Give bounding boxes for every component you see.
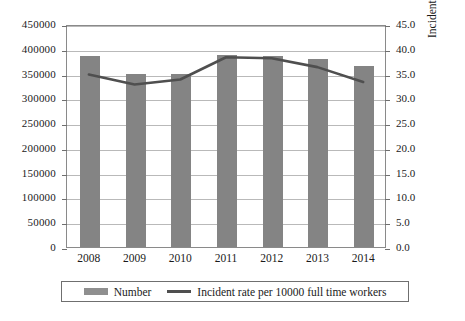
bar-2010 [171,74,191,247]
left-axis-tick-label: 0 [0,242,56,253]
x-axis-label-2008: 2008 [66,252,112,264]
legend-label-number: Number [114,286,152,298]
legend-label-incident-rate: Incident rate per 10000 full time worker… [197,286,386,298]
left-axis-tick-label: 450000 [0,19,56,30]
left-axis-tick [62,51,67,52]
right-axis-tick-label: 20.0 [396,143,415,154]
plot-area [66,25,386,248]
left-axis-tick-label: 250000 [0,118,56,129]
bar-2014 [354,66,374,247]
left-axis-tick-label: 300000 [0,93,56,104]
right-axis-tick-label: 25.0 [396,118,415,129]
right-axis-title: Incident rate per 10000 full time worker… [426,0,438,38]
legend-item-number[interactable]: Number [84,286,152,298]
left-axis-tick [62,26,67,27]
x-axis-label-2011: 2011 [203,252,249,264]
left-axis-tick [62,150,67,151]
right-axis-tick-label: 10.0 [396,192,415,203]
left-axis-tick-label: 150000 [0,168,56,179]
right-axis-tick [385,150,390,151]
legend-bar-swatch-icon [84,288,108,295]
right-axis-tick-label: 30.0 [396,93,415,104]
gridline [67,51,385,52]
right-axis-tick [385,224,390,225]
x-axis-label-2012: 2012 [249,252,295,264]
left-axis-tick [62,76,67,77]
legend-item-incident-rate[interactable]: Incident rate per 10000 full time worker… [167,286,386,298]
left-axis-tick [62,199,67,200]
right-axis-tick [385,125,390,126]
right-axis-tick-label: 5.0 [396,217,410,228]
x-axis-label-2009: 2009 [112,252,158,264]
left-axis-tick [62,224,67,225]
right-axis-tick [385,51,390,52]
right-axis-tick [385,175,390,176]
left-axis-tick [62,100,67,101]
right-axis-tick [385,76,390,77]
left-axis-tick-label: 350000 [0,69,56,80]
right-axis-tick [385,26,390,27]
left-axis-tick-label: 400000 [0,44,56,55]
bar-2009 [126,74,146,247]
right-axis-tick [385,199,390,200]
left-axis-tick-label: 100000 [0,192,56,203]
x-axis-label-2013: 2013 [295,252,341,264]
right-axis-tick-label: 15.0 [396,168,415,179]
right-axis-tick-label: 0.0 [396,242,410,253]
bar-2011 [217,55,237,247]
chart-container: 4500004000003500003000002500002000001500… [0,0,465,321]
left-axis-tick-label: 200000 [0,143,56,154]
bar-2013 [308,59,328,247]
left-axis-tick-label: 50000 [0,217,56,228]
x-axis-label-2014: 2014 [340,252,386,264]
right-axis-tick-label: 35.0 [396,69,415,80]
right-axis-tick [385,249,390,250]
chart-legend: Number Incident rate per 10000 full time… [61,281,409,302]
right-axis-tick [385,100,390,101]
left-axis-tick [62,175,67,176]
x-axis-label-2010: 2010 [157,252,203,264]
right-axis-tick-label: 45.0 [396,19,415,30]
left-axis-tick [62,249,67,250]
left-axis-tick [62,125,67,126]
bar-2012 [263,56,283,247]
gridline [67,26,385,27]
bar-2008 [80,56,100,247]
right-axis-tick-label: 40.0 [396,44,415,55]
legend-line-swatch-icon [167,290,191,293]
